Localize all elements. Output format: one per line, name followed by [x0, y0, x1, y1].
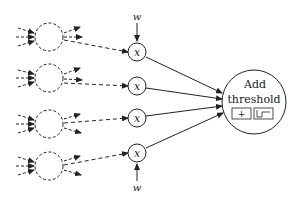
add-threshold-node: Add threshold +	[222, 70, 286, 134]
weighted-edge-4	[146, 113, 223, 148]
svg-text:x: x	[134, 147, 141, 160]
multiply-node-4: x	[128, 144, 146, 162]
input-neuron-2	[16, 64, 82, 92]
weighted-edge-2	[146, 88, 222, 99]
node-label-add: Add	[243, 78, 266, 91]
multiply-node-3: x	[128, 109, 146, 127]
input-neuron-1	[16, 23, 82, 51]
svg-text:x: x	[134, 80, 141, 93]
connection-1	[64, 40, 128, 52]
multiply-node-1: x	[128, 43, 146, 61]
weight-label-top: w	[133, 11, 142, 22]
node-label-threshold: threshold	[227, 93, 280, 106]
connection-3	[64, 118, 128, 123]
connection-2	[64, 83, 128, 86]
plus-icon: +	[238, 109, 246, 119]
input-neuron-4	[16, 152, 81, 180]
svg-text:x: x	[134, 46, 141, 59]
weight-label-bottom: w	[133, 182, 142, 193]
neuron-diagram: w w x x x x Add threshold +	[0, 0, 292, 201]
weighted-edge-1	[146, 57, 222, 93]
connection-4	[64, 153, 128, 165]
multiply-node-2: x	[128, 77, 146, 95]
input-neuron-3	[16, 110, 81, 138]
weighted-edge-3	[146, 106, 222, 116]
svg-text:x: x	[134, 112, 141, 125]
